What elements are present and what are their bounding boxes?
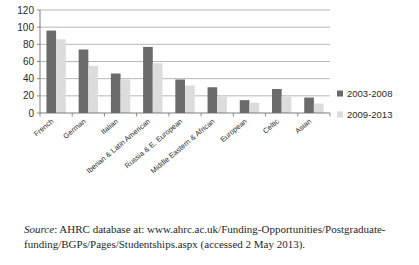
bar bbox=[46, 31, 56, 113]
bar bbox=[111, 74, 121, 113]
x-category-label: French bbox=[32, 117, 55, 139]
bar bbox=[314, 104, 324, 113]
y-tick-label: 40 bbox=[23, 73, 35, 84]
source-caption: Source: AHRC database at: www.ahrc.ac.uk… bbox=[24, 222, 402, 251]
y-axis-tick-labels: 020406080100120 bbox=[17, 5, 34, 119]
bar bbox=[88, 66, 98, 113]
legend-swatch bbox=[337, 91, 343, 97]
x-axis-category-labels: FrenchGermanItalianIberian & Latin Ameri… bbox=[32, 116, 313, 175]
bar bbox=[143, 47, 153, 113]
bar bbox=[304, 98, 314, 113]
y-tick-label: 0 bbox=[28, 108, 34, 119]
bar bbox=[272, 89, 282, 113]
bar bbox=[153, 63, 163, 113]
x-category-label: Iberian & Latin American bbox=[85, 117, 152, 176]
x-category-label: German bbox=[61, 117, 87, 141]
legend-label: 2009-2013 bbox=[347, 109, 392, 120]
bar bbox=[208, 87, 218, 113]
x-category-label: Middle Eastern & African bbox=[149, 117, 217, 176]
bar bbox=[185, 86, 195, 113]
x-category-label: Asian bbox=[293, 117, 313, 136]
y-tick-label: 20 bbox=[23, 90, 35, 101]
source-text: : AHRC database at: www.ahrc.ac.uk/Fundi… bbox=[24, 223, 386, 250]
bar bbox=[175, 80, 185, 113]
bar bbox=[56, 39, 66, 113]
bar bbox=[217, 97, 227, 113]
bar bbox=[240, 100, 250, 113]
bar bbox=[249, 103, 259, 113]
legend-label: 2003-2008 bbox=[347, 88, 392, 99]
y-tick-label: 120 bbox=[17, 5, 34, 16]
bars-group bbox=[46, 31, 323, 113]
y-tick-label: 100 bbox=[17, 22, 34, 33]
chart-legend: 2003-20082009-2013 bbox=[337, 88, 392, 120]
y-tick-label: 80 bbox=[23, 39, 35, 50]
x-category-label: Celtic bbox=[261, 116, 281, 135]
y-tick-label: 60 bbox=[23, 56, 35, 67]
bar-chart: 020406080100120 FrenchGermanItalianIberi… bbox=[0, 0, 419, 200]
bar bbox=[121, 80, 131, 113]
x-axis-tick-marks bbox=[40, 113, 330, 117]
chart-figure: 020406080100120 FrenchGermanItalianIberi… bbox=[0, 0, 419, 200]
x-category-label: Russia & E. European bbox=[123, 117, 184, 171]
source-label: Source bbox=[24, 223, 54, 235]
legend-swatch bbox=[337, 112, 343, 118]
bar bbox=[79, 49, 89, 113]
x-category-label: European bbox=[218, 117, 248, 145]
bar bbox=[282, 97, 292, 113]
x-category-label: Italian bbox=[99, 117, 120, 137]
